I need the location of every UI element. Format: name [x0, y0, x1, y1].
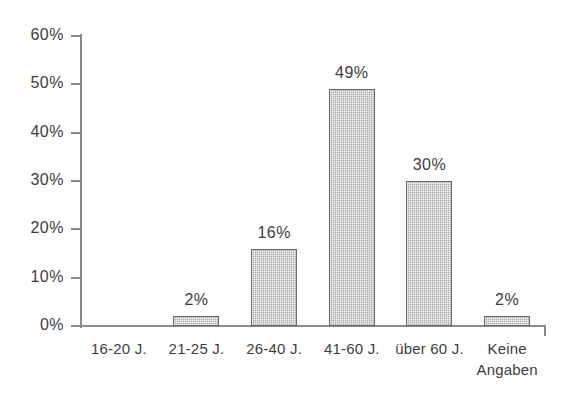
x-axis-category-label: KeineAngaben — [461, 338, 553, 380]
x-axis-category-label-line: über 60 J. — [395, 340, 464, 357]
x-axis-category-label-line: 16-20 J. — [91, 340, 147, 357]
y-axis-tick — [71, 228, 80, 230]
x-axis-category-label-line: 41-60 J. — [324, 340, 380, 357]
bar-value-label: 49% — [313, 65, 391, 81]
bar-value-label: 16% — [235, 225, 313, 241]
y-axis-tick-label-wrap: 10% — [0, 269, 64, 285]
y-axis-tick-label-wrap: 60% — [0, 27, 64, 43]
y-axis-tick — [71, 325, 80, 327]
y-axis-tick-label: 50% — [4, 75, 64, 91]
bar-group: 16% — [235, 36, 313, 326]
y-axis-tick — [71, 35, 80, 37]
bar-chart-figure: 0%10%20%30%40%50%60% 2%16%49%30%2% 16-20… — [0, 0, 578, 397]
bar-value-label: 2% — [468, 292, 546, 308]
y-axis-tick-label: 60% — [4, 27, 64, 43]
bar-group: 49% — [313, 36, 391, 326]
bar-group: 2% — [158, 36, 236, 326]
y-axis-tick — [71, 277, 80, 279]
y-axis-tick-label-wrap: 40% — [0, 124, 64, 140]
y-axis-tick-label: 10% — [4, 269, 64, 285]
bar — [251, 249, 297, 326]
x-axis-category-label-line: 26-40 J. — [246, 340, 302, 357]
x-axis-category-labels: 16-20 J.21-25 J.26-40 J.41-60 J.über 60 … — [80, 338, 546, 394]
plot-area: 2%16%49%30%2% — [80, 36, 546, 326]
y-axis-tick — [71, 180, 80, 182]
y-axis-tick-label: 40% — [4, 124, 64, 140]
bar — [484, 316, 530, 326]
y-axis-tick-label: 0% — [4, 317, 64, 333]
bar — [406, 181, 452, 326]
bar-group: 2% — [468, 36, 546, 326]
bar-value-label: 2% — [158, 292, 236, 308]
y-axis-tick-label-wrap: 20% — [0, 220, 64, 236]
x-axis-category-label-line: Angaben — [461, 359, 553, 380]
bar-group: 30% — [391, 36, 469, 326]
bar — [329, 89, 375, 326]
x-axis-end-cap — [544, 325, 546, 336]
x-axis-category-label-line: Keine — [487, 340, 526, 357]
y-axis-tick-label-wrap: 30% — [0, 172, 64, 188]
chart-title-remnant — [210, 0, 410, 5]
x-axis-category-label-line: 21-25 J. — [169, 340, 225, 357]
y-axis-tick-label: 30% — [4, 172, 64, 188]
y-axis-tick — [71, 83, 80, 85]
bar-value-label: 30% — [391, 157, 469, 173]
y-axis-tick-label-wrap: 50% — [0, 75, 64, 91]
bar — [173, 316, 219, 326]
bar-group — [80, 36, 158, 326]
y-axis-tick-label-wrap: 0% — [0, 317, 64, 333]
y-axis-tick-label: 20% — [4, 220, 64, 236]
y-axis-tick — [71, 132, 80, 134]
